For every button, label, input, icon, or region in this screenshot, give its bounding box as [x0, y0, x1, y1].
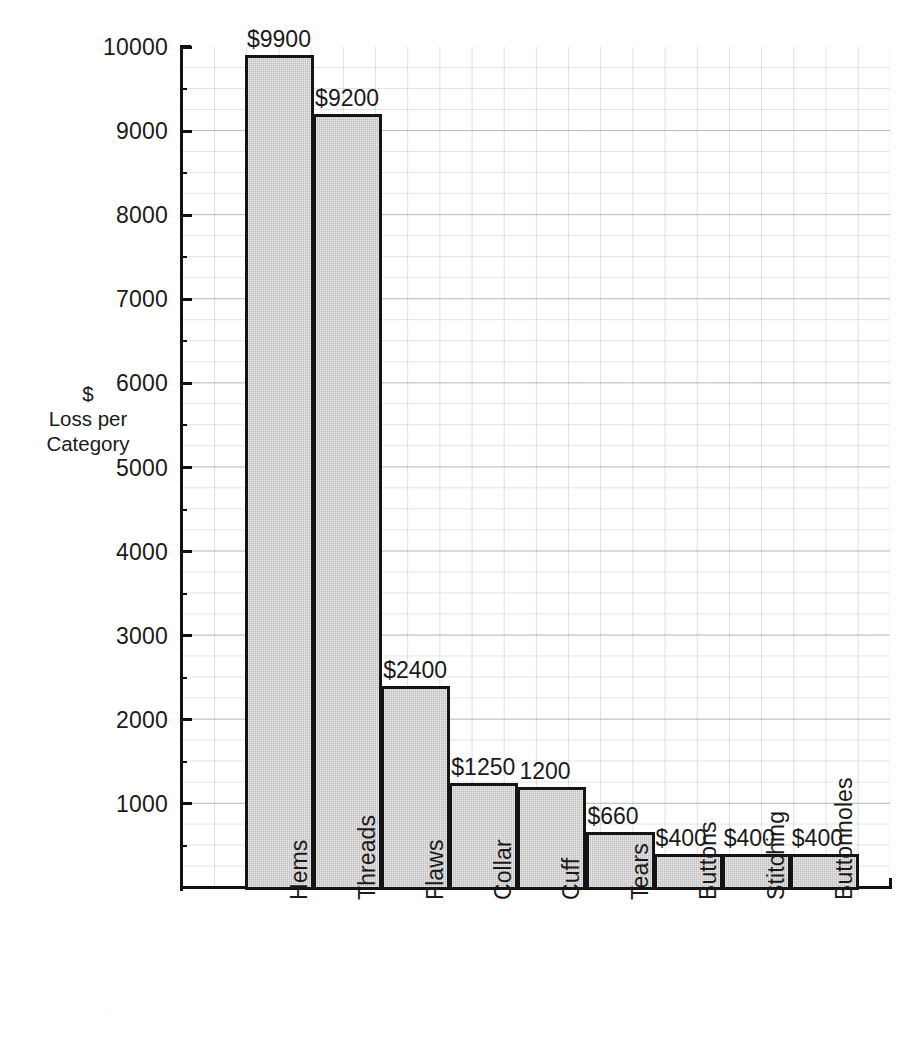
bar-value-label: $1250 [451, 756, 515, 779]
y-tick-label: 6000 [0, 372, 168, 395]
y-tick-major [180, 634, 192, 637]
x-category-label: Collar [492, 839, 515, 900]
bar-value-label: $2400 [383, 659, 447, 682]
bar-value-label: $9900 [247, 28, 311, 51]
pareto-bar-chart: $ Loss per Category 10002000300040005000… [0, 0, 916, 1044]
y-tick-major [180, 382, 192, 385]
y-tick-label: 2000 [0, 709, 168, 732]
y-tick-minor [180, 845, 187, 847]
y-tick-label: 5000 [0, 457, 168, 480]
x-category-label: Cuff [560, 858, 583, 900]
y-tick-major [180, 214, 192, 217]
y-tick-minor [180, 509, 187, 511]
y-tick-label: 9000 [0, 120, 168, 143]
bar-value-label: $9200 [315, 87, 379, 110]
y-axis-title-line-3: Category [8, 431, 168, 456]
y-tick-minor [180, 424, 187, 426]
y-tick-label: 3000 [0, 625, 168, 648]
y-tick-label: 1000 [0, 793, 168, 816]
y-tick-major [180, 802, 192, 805]
y-tick-minor [180, 256, 187, 258]
x-category-label: Stitching [765, 811, 788, 900]
y-tick-major [180, 46, 192, 49]
y-tick-major [180, 550, 192, 553]
x-category-label: Buttonholes [833, 777, 856, 900]
y-tick-minor [180, 761, 187, 763]
y-tick-minor [180, 677, 187, 679]
y-tick-minor [180, 88, 187, 90]
x-category-label: Flaws [424, 839, 447, 900]
y-tick-major [180, 130, 192, 133]
y-tick-label: 7000 [0, 288, 168, 311]
y-tick-major [180, 466, 192, 469]
x-category-label: Threads [356, 815, 379, 900]
x-category-label: Hems [288, 840, 311, 900]
y-axis-title-line-2: Loss per [8, 406, 168, 431]
x-category-label: Buttons [697, 821, 720, 900]
y-tick-minor [180, 593, 187, 595]
y-tick-label: 8000 [0, 204, 168, 227]
x-category-label: Tears [629, 843, 652, 900]
y-tick-minor [180, 172, 187, 174]
y-tick-label: 4000 [0, 541, 168, 564]
bar [313, 114, 382, 890]
bar [245, 55, 314, 890]
bar-value-label: $660 [588, 805, 639, 828]
x-axis-right-cap [889, 878, 892, 889]
y-tick-minor [180, 340, 187, 342]
y-tick-major [180, 298, 192, 301]
y-tick-major [180, 718, 192, 721]
y-tick-label: 10000 [0, 36, 168, 59]
bar-value-label: 1200 [519, 760, 570, 783]
